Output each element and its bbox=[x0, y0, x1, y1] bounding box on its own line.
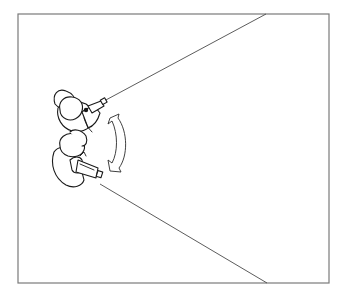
camera-field-of-view-diagram bbox=[0, 0, 342, 297]
lower-operator-figure bbox=[53, 130, 103, 187]
lower-view-ray bbox=[100, 184, 267, 283]
rotation-arrow-icon bbox=[108, 114, 126, 172]
upper-view-ray bbox=[104, 14, 266, 101]
upper-operator-figure bbox=[54, 90, 107, 132]
